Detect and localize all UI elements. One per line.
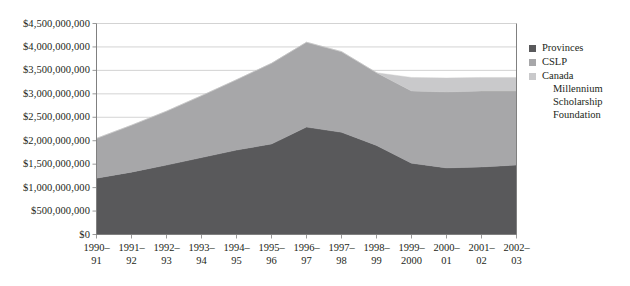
legend-item[interactable]: CSLP — [529, 55, 630, 68]
legend-item-label-line: Foundation — [542, 108, 603, 121]
legend-item-label: Provinces — [542, 42, 583, 53]
x-axis-tick-label-line: 2002– — [495, 241, 539, 254]
legend-swatch-icon — [529, 59, 536, 66]
chart-legend: ProvincesCSLPCanadaMillenniumScholarship… — [529, 41, 630, 122]
legend-item-label: CSLP — [542, 56, 567, 67]
series-areas — [97, 42, 517, 234]
legend-swatch-icon — [529, 45, 536, 52]
legend-item-label: Canada — [542, 70, 574, 81]
stacked-area-chart: $4,500,000,000$4,000,000,000$3,500,000,0… — [0, 0, 630, 286]
legend-item-label-line: Scholarship — [542, 95, 603, 108]
x-axis-tick-label-line: 03 — [495, 254, 539, 267]
legend-item[interactable]: CanadaMillenniumScholarshipFoundation — [529, 69, 630, 121]
x-axis-labels: 1990–911991–921992–931993–941994–951995–… — [0, 241, 630, 286]
legend-item[interactable]: Provinces — [529, 41, 630, 54]
x-axis-tick-label: 2002–03 — [495, 241, 539, 267]
legend-item-label-line: Millennium — [542, 82, 603, 95]
legend-swatch-icon — [529, 73, 536, 80]
